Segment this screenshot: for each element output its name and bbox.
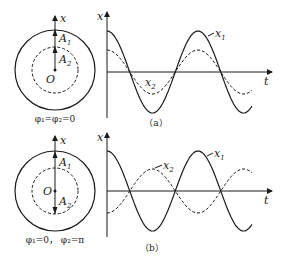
x1-leader-line xyxy=(207,153,213,156)
axis-label: x xyxy=(60,12,67,25)
superposition-figure: x A1 A2 O φ₁=φ₂=0 x t x1 x2 （a） x A1 A2 … xyxy=(0,0,281,263)
time-graph-a: x t x1 x2 （a） xyxy=(97,10,272,128)
y-axis-label: x xyxy=(97,10,104,23)
arrowhead-a1-icon xyxy=(53,151,58,158)
y-axis-label: x xyxy=(97,131,104,144)
t-axis-label: t xyxy=(264,75,269,88)
arrowhead-a2-icon xyxy=(53,207,58,214)
x1-leader-line xyxy=(208,33,214,36)
caption-a: （a） xyxy=(144,118,167,128)
a1-label: A1 xyxy=(58,156,71,171)
phase-label-a: φ₁=φ₂=0 xyxy=(35,114,76,124)
axis-label: x xyxy=(60,134,67,147)
a1-label: A1 xyxy=(58,32,71,47)
time-graph-b: x t x1 x2 （b） xyxy=(97,131,272,253)
phasor-diagram-a: x A1 A2 O φ₁=φ₂=0 xyxy=(15,12,95,124)
a2-label: A2 xyxy=(58,195,72,210)
x2-label: x2 xyxy=(163,159,174,174)
x1-label: x1 xyxy=(215,27,226,42)
phasor-diagram-b: x A1 A2 O φ₁=0， φ₂=π xyxy=(15,134,95,245)
origin-dot xyxy=(54,190,57,193)
x2-leader-line xyxy=(155,165,162,168)
caption-b: （b） xyxy=(140,243,164,253)
t-axis-label: t xyxy=(264,194,269,207)
x2-label: x2 xyxy=(145,76,156,91)
a2-label: A2 xyxy=(58,53,72,68)
phase-label-b: φ₁=0， φ₂=π xyxy=(26,235,84,245)
origin-label: O xyxy=(46,73,55,86)
origin-dot xyxy=(54,69,57,72)
x1-label: x1 xyxy=(214,147,225,162)
origin-label: O xyxy=(43,185,52,198)
